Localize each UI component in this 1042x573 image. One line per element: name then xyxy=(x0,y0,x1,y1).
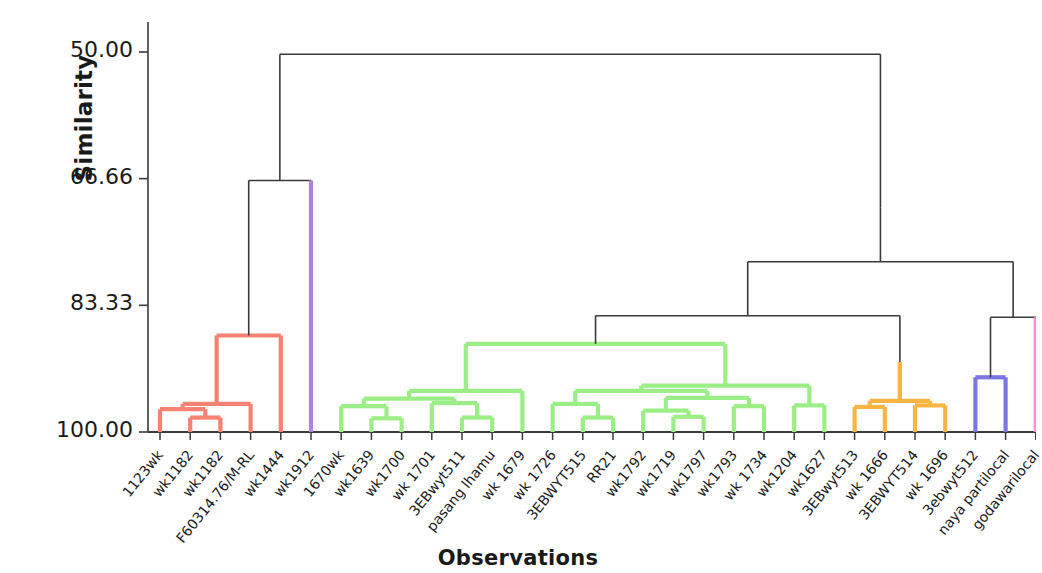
y-tick-label: 66.66 xyxy=(13,164,133,189)
y-tick-label: 83.33 xyxy=(13,290,133,315)
y-tick-label: 50.00 xyxy=(13,37,133,62)
y-tick-label: 100.00 xyxy=(13,417,133,442)
